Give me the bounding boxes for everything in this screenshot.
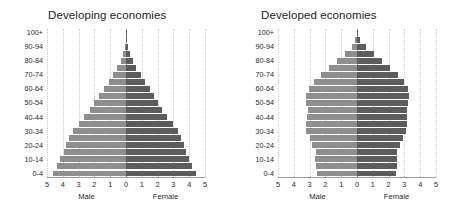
bar-male [321,72,357,78]
bar-male [316,149,357,155]
bar-male [316,163,357,169]
pyramid-row [278,156,436,163]
pyramid-row [47,128,205,135]
bar-female [126,51,130,57]
age-group-label: 70-74 [25,71,43,78]
pyramid-row [278,142,436,149]
bar-female [357,107,407,113]
bar-male [73,128,126,134]
bar-male [306,93,357,99]
age-group-label: 60-64 [256,85,274,92]
panel-title: Developing economies [48,9,166,21]
pyramid-row [47,43,205,50]
bar-female [126,100,158,106]
bar-female [357,37,360,43]
pyramid-row [47,78,205,85]
bar-male [90,107,126,113]
pyramid-row [278,43,436,50]
x-tick-label: 3 [77,180,81,189]
age-group-label: 70-74 [256,71,274,78]
age-group-label: 0-4 [33,170,43,177]
bar-male [66,142,126,148]
pyramid-row [47,107,205,114]
bar-female [126,79,145,85]
male-label: Male [78,192,94,201]
bar-male [307,114,357,120]
x-tick-label: 1 [371,180,375,189]
bar-female [126,142,184,148]
bar-male [314,79,357,85]
pyramid-row [47,156,205,163]
x-tick-label: 4 [61,180,65,189]
bar-female [126,86,150,92]
bar-female [126,44,128,50]
bar-female [126,107,162,113]
x-tick-label: 1 [140,180,144,189]
pyramid-row [278,85,436,92]
pyramid-row [278,163,436,170]
x-tick-label: 1 [339,180,343,189]
bar-female [126,128,178,134]
bar-male [117,65,126,71]
pyramid-row [47,36,205,43]
x-tick-label: 3 [308,180,312,189]
x-tick-label: 5 [434,180,438,189]
bar-female [357,79,404,85]
x-axis-ticks: 54321012345 [278,180,436,191]
pyramid-row [47,163,205,170]
gridline [436,29,437,177]
pyramid-row [47,50,205,57]
bar-male [84,114,126,120]
bar-female [126,156,189,162]
age-group-label: 0-4 [264,170,274,177]
pyramid-row [47,92,205,99]
pyramid-row [278,121,436,128]
age-group-label: 40-44 [256,114,274,121]
bar-female [126,93,154,99]
x-tick-label: 4 [187,180,191,189]
age-group-label: 90-94 [256,43,274,50]
bar-male [312,142,357,148]
pyramid-row [47,170,205,177]
bar-male [306,128,357,134]
bar-female [126,171,196,177]
bar-female [357,65,390,71]
bar-female [357,100,408,106]
bar-male [60,156,126,162]
pyramid-row [278,114,436,121]
age-group-label: 40-44 [25,114,43,121]
bar-female [357,58,382,64]
x-tick-label: 4 [418,180,422,189]
panel-title: Developed economies [261,9,377,21]
x-tick-label: 2 [387,180,391,189]
bar-male [53,171,126,177]
bar-male [345,51,357,57]
pyramid-row [278,36,436,43]
x-tick-label: 3 [171,180,175,189]
age-group-label: 100+ [258,29,274,36]
bar-male [69,135,126,141]
pyramid-row [278,107,436,114]
pyramid-row [278,78,436,85]
pyramid-row [47,57,205,64]
bar-female [357,72,398,78]
age-group-label: 30-34 [25,128,43,135]
female-label: Female [153,192,178,201]
bar-male [57,163,126,169]
bar-female [357,142,400,148]
x-tick-label: 2 [323,180,327,189]
bar-female [126,135,181,141]
female-label: Female [384,192,409,201]
pyramid-row [47,85,205,92]
x-tick-label: 5 [45,180,49,189]
x-tick-label: 0 [124,180,128,189]
bar-male [64,149,126,155]
pyramid-row [278,135,436,142]
bar-female [357,156,397,162]
x-axis-ticks: 54321012345 [47,180,205,191]
age-group-label: 80-84 [25,57,43,64]
bar-female [126,114,167,120]
male-label: Male [309,192,325,201]
pyramid-row [278,170,436,177]
bar-female [357,135,403,141]
